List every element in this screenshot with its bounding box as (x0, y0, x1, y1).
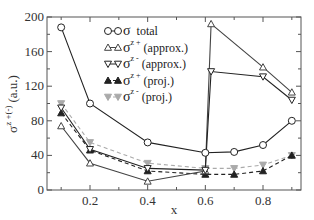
y-label-unit: (a.u.) (5, 75, 20, 102)
data-point-marker (208, 20, 215, 26)
y-tick-label: 80 (31, 113, 44, 128)
legend-marker (105, 28, 112, 35)
data-point-marker (288, 97, 295, 103)
series-2 (58, 69, 296, 174)
data-point-marker (231, 148, 238, 155)
series-line (61, 72, 292, 171)
x-tick-label: 0.6 (197, 193, 214, 208)
data-point-marker (288, 117, 295, 124)
legend-item: σz -(approx.) (105, 54, 187, 71)
y-axis-label: σz +(-)(a.u.) (3, 75, 20, 133)
y-tick-label: 160 (25, 44, 45, 59)
x-axis-label: x (171, 202, 178, 217)
data-point-marker (87, 100, 94, 107)
legend-label: σz +(approx.) (123, 38, 188, 55)
data-point-marker (260, 142, 267, 149)
data-point-marker (202, 149, 209, 156)
legend-label: σtotal (123, 23, 159, 38)
y-tick-label: 0 (38, 182, 45, 197)
legend-label: σz -(approx.) (123, 54, 186, 71)
svg-text:σz +(-)(a.u.): σz +(-)(a.u.) (3, 75, 20, 133)
series-line (61, 104, 292, 169)
y-label-symbol: σ (5, 126, 20, 133)
series-4 (58, 101, 296, 172)
y-tick-label: 120 (25, 78, 45, 93)
x-tick-label: 0.4 (140, 193, 157, 208)
legend-item: σz -(proj.) (105, 87, 173, 104)
legend-item: σz +(approx.) (105, 38, 188, 55)
x-tick-label: 0.8 (255, 193, 271, 208)
legend-item: σtotal (105, 23, 159, 38)
y-tick-label: 40 (31, 147, 44, 162)
y-label-superscript: z +(-) (3, 106, 13, 126)
legend-label: σz +(proj.) (123, 71, 174, 88)
legend: σtotalσz +(approx.)σz -(approx.)σz +(pro… (105, 23, 188, 104)
y-tick-label: 200 (25, 9, 45, 24)
legend-label: σz -(proj.) (123, 87, 172, 104)
data-point-marker (58, 122, 65, 128)
legend-marker (115, 28, 122, 35)
legend-item: σz +(proj.) (105, 71, 174, 88)
data-point-marker (144, 139, 151, 146)
data-point-marker (58, 24, 65, 31)
data-point-marker (260, 167, 267, 173)
x-tick-label: 0.2 (82, 193, 98, 208)
line-chart: 04080120160200 0.20.40.60.8 σtotalσz +(a… (0, 0, 314, 220)
